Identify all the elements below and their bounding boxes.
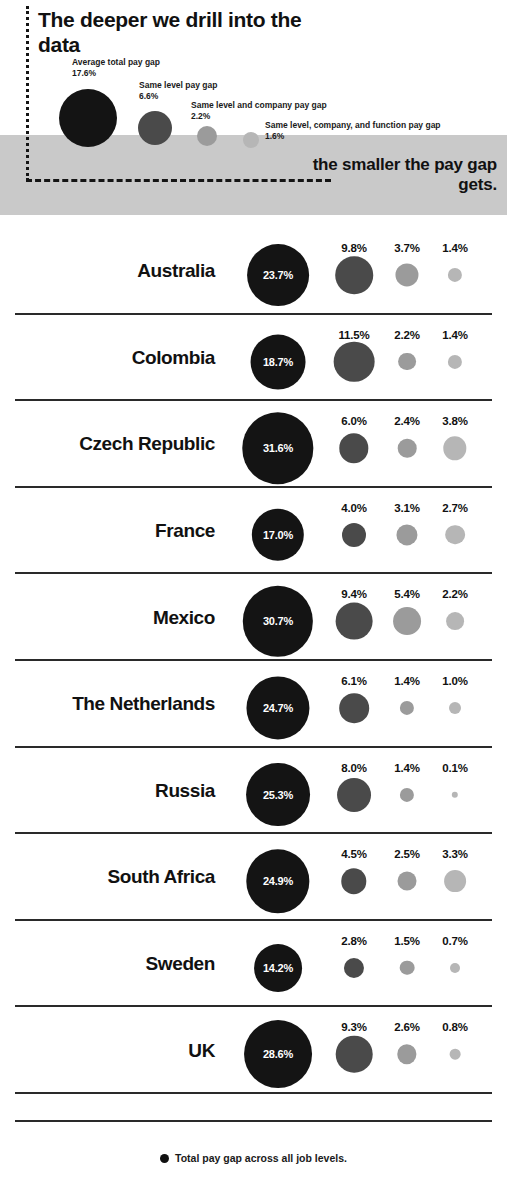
bubble-4 (446, 612, 464, 630)
table-row[interactable]: France17.0%4.0%3.1%2.7% (0, 488, 507, 575)
bubble-value-label: 4.5% (341, 848, 366, 860)
bubble-3 (400, 701, 414, 715)
legend-caption-4: Same level, company, and function pay ga… (265, 120, 441, 143)
bubble-value-label: 0.8% (442, 1021, 467, 1033)
bubble-value-inner: 24.7% (263, 702, 293, 714)
country-label: The Netherlands (0, 661, 215, 748)
bubble-value-inner: 17.0% (263, 529, 293, 541)
bubble-value-label: 1.4% (394, 762, 419, 774)
bubble-2 (334, 341, 375, 382)
table-row[interactable]: Sweden14.2%2.8%1.5%0.7% (0, 921, 507, 1008)
table-row[interactable]: Czech Republic31.6%6.0%2.4%3.8% (0, 401, 507, 488)
bubble-value-label: 1.0% (442, 675, 467, 687)
bubble-4 (450, 963, 460, 973)
country-label: Czech Republic (0, 401, 215, 488)
bubble-3 (397, 1045, 416, 1064)
bubble-value-inner: 25.3% (263, 789, 293, 801)
bubble-value-label: 1.4% (442, 329, 467, 341)
bubble-value-inner: 24.9% (263, 875, 293, 887)
bubble-value-label: 2.8% (341, 935, 366, 947)
header-tagline: the smaller the pay gap gets. (297, 155, 497, 196)
country-label: UK (0, 1007, 215, 1094)
bubble-2 (335, 256, 373, 294)
table-row[interactable]: Russia25.3%8.0%1.4%0.1% (0, 748, 507, 835)
table-row[interactable]: The Netherlands24.7%6.1%1.4%1.0% (0, 661, 507, 748)
bubble-value-label: 4.0% (341, 502, 366, 514)
bubble-2 (339, 433, 368, 462)
legend-caption-1: Average total pay gap17.6% (72, 57, 160, 80)
bubble-2 (336, 603, 373, 640)
bubble-value-label: 8.0% (341, 762, 366, 774)
bubble-value-label: 11.5% (339, 329, 370, 341)
bubble-value-label: 2.7% (442, 502, 467, 514)
header-section: The deeper we drill into the data the sm… (0, 0, 507, 228)
bubble-3 (398, 439, 417, 458)
table-row[interactable]: UK28.6%9.3%2.6%0.8% (0, 1007, 507, 1094)
bubble-value-label: 0.7% (442, 935, 467, 947)
bubble-2 (344, 958, 364, 978)
bubble-value-label: 9.4% (341, 588, 366, 600)
header-dotted-vertical-rule (26, 6, 29, 181)
bubble-3 (396, 524, 417, 545)
table-row[interactable]: Australia23.7%9.8%3.7%1.4% (0, 228, 507, 315)
bubble-3 (395, 263, 418, 286)
country-label: France (0, 488, 215, 575)
bubble-value-label: 1.4% (394, 675, 419, 687)
bubble-value-label: 2.5% (394, 848, 419, 860)
bubble-value-label: 2.4% (394, 415, 419, 427)
bubble-3 (398, 872, 417, 891)
bubble-4 (452, 791, 458, 797)
bubble-value-label: 5.4% (394, 588, 419, 600)
legend-caption-label: Same level pay gap (139, 80, 217, 90)
bubble-value-inner: 28.6% (263, 1048, 293, 1060)
table-row[interactable]: Colombia18.7%11.5%2.2%1.4% (0, 315, 507, 402)
row-divider (15, 1092, 492, 1094)
bubble-value-label: 6.0% (341, 415, 366, 427)
bubble-4 (450, 1049, 461, 1060)
bubble-4 (445, 525, 465, 545)
bubble-value-inner: 14.2% (263, 962, 293, 974)
country-label: Australia (0, 228, 215, 315)
country-label: Colombia (0, 315, 215, 402)
bubble-value-label: 2.2% (442, 588, 467, 600)
table-row[interactable]: South Africa24.9%4.5%2.5%3.3% (0, 834, 507, 921)
bubble-value-label: 2.2% (394, 329, 419, 341)
legend-bubble-1 (59, 89, 117, 147)
bubble-value-inner: 23.7% (263, 269, 293, 281)
bubble-3 (393, 607, 421, 635)
country-label: Mexico (0, 574, 215, 661)
bubble-4 (448, 355, 462, 369)
footer-legend: Total pay gap across all job levels. (0, 1152, 507, 1164)
bubble-3 (400, 787, 414, 801)
bubble-value-inner: 18.7% (263, 356, 293, 368)
bubble-3 (400, 960, 415, 975)
bubble-4 (449, 702, 461, 714)
bubble-4 (448, 268, 462, 282)
country-rows: Australia23.7%9.8%3.7%1.4%Colombia18.7%1… (0, 228, 507, 1094)
bubble-4 (444, 870, 466, 892)
bubble-value-label: 0.1% (442, 762, 467, 774)
legend-caption-label: Average total pay gap (72, 57, 160, 67)
bubble-value-label: 2.6% (394, 1021, 419, 1033)
bubble-2 (339, 693, 369, 723)
legend-caption-label: Same level and company pay gap (191, 100, 327, 110)
legend-caption-label: Same level, company, and function pay ga… (265, 120, 441, 130)
bubble-value-label: 9.8% (341, 242, 366, 254)
total-pay-gap-dot-icon (160, 1154, 169, 1163)
page-title: The deeper we drill into the data (38, 8, 338, 58)
country-label: South Africa (0, 834, 215, 921)
bubble-4 (443, 436, 466, 459)
bubble-value-inner: 31.6% (263, 442, 293, 454)
bubble-value-label: 6.1% (341, 675, 366, 687)
bubble-value-label: 3.3% (442, 848, 467, 860)
legend-caption-value: 17.6% (72, 68, 160, 79)
legend-bubble-3 (197, 126, 217, 146)
bubble-value-label: 3.7% (394, 242, 419, 254)
bubble-2 (337, 778, 371, 812)
table-row[interactable]: Mexico30.7%9.4%5.4%2.2% (0, 574, 507, 661)
country-label: Russia (0, 748, 215, 835)
bubble-2 (341, 868, 366, 893)
bubble-value-label: 1.4% (442, 242, 467, 254)
bubble-3 (398, 353, 416, 371)
legend-bubble-4 (243, 132, 259, 148)
